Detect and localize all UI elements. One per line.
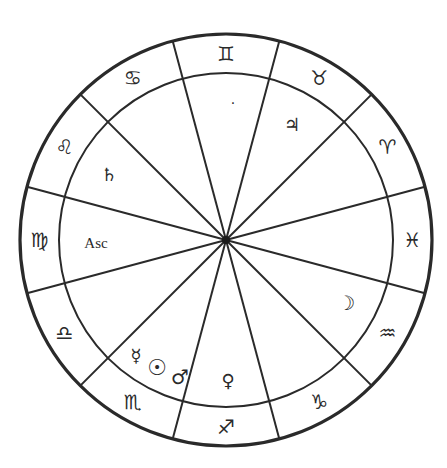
zodiac-gemini-icon: ♊	[217, 42, 235, 66]
house-cusp-line	[173, 41, 226, 240]
zodiac-pisces-icon: ♓	[404, 228, 422, 252]
zodiac-libra-icon: ♎	[56, 321, 74, 345]
house-cusp-line	[226, 240, 425, 293]
astrological-chart-wheel: ♍♎♏♐♑♒♓♈♉♊♋♌ ♄·♃☽♀☿☉♂ Asc	[0, 0, 447, 468]
zodiac-aries-icon: ♈	[379, 135, 397, 159]
zodiac-scorpio-icon: ♏	[124, 390, 142, 414]
planet-point-icon: ·	[231, 95, 235, 111]
house-cusp-line	[27, 240, 226, 293]
planet-moon-icon: ☽	[337, 291, 355, 315]
zodiac-cancer-icon: ♋	[124, 66, 142, 90]
zodiac-leo-icon: ♌	[56, 135, 74, 159]
planet-mars-icon: ♂	[171, 365, 189, 389]
zodiac-taurus-icon: ♉	[310, 66, 328, 90]
house-cusp-line	[226, 187, 425, 240]
planet-saturn-icon: ♄	[101, 164, 117, 185]
center-hub	[222, 236, 230, 244]
house-cusp-line	[173, 240, 226, 439]
zodiac-sagittarius-icon: ♐	[217, 415, 235, 439]
house-cusp-line	[226, 240, 279, 439]
planet-venus-icon: ♀	[221, 370, 234, 391]
planet-jupiter-icon: ♃	[284, 114, 300, 135]
ascendant-label: Asc	[84, 235, 108, 251]
house-cusp-line	[226, 41, 279, 240]
planet-sun-icon: ☉	[147, 355, 167, 380]
zodiac-virgo-icon: ♍	[31, 228, 49, 252]
planet-mercury-icon: ☿	[130, 345, 141, 366]
house-cusp-line	[27, 187, 226, 240]
zodiac-aquarius-icon: ♒	[379, 321, 397, 345]
zodiac-capricorn-icon: ♑	[310, 390, 328, 414]
